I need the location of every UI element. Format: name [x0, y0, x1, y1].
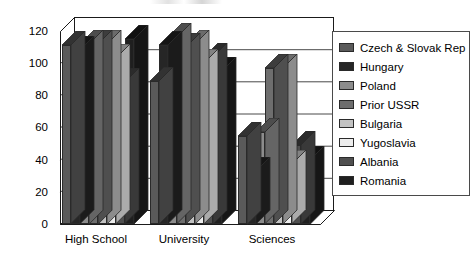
legend-item-label: Bulgaria [360, 118, 402, 130]
bar-front-face [238, 136, 247, 224]
legend-item-label: Czech & Slovak Rep [360, 42, 465, 54]
legend-swatch-icon [339, 62, 354, 71]
bar [150, 81, 159, 224]
legend-item-label: Hungary [360, 61, 403, 73]
legend-swatch-icon [339, 81, 354, 90]
bar-side-face [159, 67, 175, 226]
legend-item-label: Poland [360, 80, 396, 92]
bar-front-face [62, 45, 71, 224]
legend-swatch-icon [339, 43, 354, 52]
legend-swatch-icon [339, 138, 354, 147]
legend-swatch-icon [339, 100, 354, 109]
legend-item-label: Yugoslavia [360, 137, 416, 149]
legend-item-label: Albania [360, 156, 398, 168]
legend-swatch-icon [339, 176, 354, 185]
legend-swatch-icon [339, 119, 354, 128]
legend-item[interactable]: Poland [339, 76, 469, 95]
legend-item[interactable]: Prior USSR [339, 95, 469, 114]
legend-item[interactable]: Czech & Slovak Rep [339, 38, 469, 57]
legend-item[interactable]: Yugoslavia [339, 133, 469, 152]
bar [62, 45, 71, 224]
legend-item[interactable]: Albania [339, 152, 469, 171]
legend-swatch-icon [339, 157, 354, 166]
legend-item[interactable]: Bulgaria [339, 114, 469, 133]
chart-legend: Czech & Slovak RepHungaryPolandPrior USS… [332, 31, 470, 196]
bar-front-face [150, 81, 159, 224]
bar [238, 136, 247, 224]
legend-item[interactable]: Romania [339, 171, 469, 190]
bar-side-face [71, 31, 87, 226]
bar-chart: 120 100 80 60 40 20 0 High School Univer… [0, 0, 474, 257]
legend-item-label: Prior USSR [360, 99, 419, 111]
x-tick-label-sciences: Sciences [212, 233, 332, 246]
legend-item[interactable]: Hungary [339, 57, 469, 76]
legend-item-label: Romania [360, 175, 406, 187]
